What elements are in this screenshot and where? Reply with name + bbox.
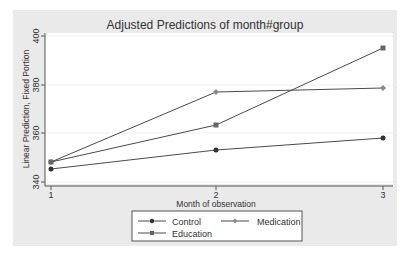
legend-label-education: Education [172,229,212,239]
y-axis-label: Linear Prediction, Fixed Portion [21,49,31,168]
y-tick-label: 400 [31,28,41,43]
chart: Adjusted Predictions of month#group 400 … [0,0,410,266]
legend-label-medication: Medication [257,217,301,227]
x-tick-label: 1 [48,190,53,200]
legend-label-control: Control [172,217,201,227]
x-axis-label: Month of observation [176,199,256,209]
chart-title: Adjusted Predictions of month#group [107,18,304,32]
y-tick-label: 340 [31,174,41,189]
x-tick-label: 3 [380,190,385,200]
plot-area [45,33,393,184]
y-tick-label: 380 [31,77,41,92]
legend: Control Medication Education [132,211,302,241]
y-tick-label: 360 [31,125,41,140]
